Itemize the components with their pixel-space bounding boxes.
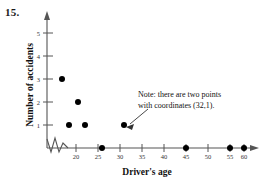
data-point bbox=[121, 122, 127, 128]
y-axis-arrowhead bbox=[44, 11, 50, 20]
figure-container: 15. 1 2 3 4 5 bbox=[0, 0, 266, 181]
data-point bbox=[99, 145, 105, 151]
x-tick-label: 60 bbox=[241, 153, 248, 160]
annotation-leader bbox=[126, 109, 148, 130]
annotation-arrowhead bbox=[126, 124, 134, 130]
y-axis-title: Number of accidents bbox=[25, 43, 35, 127]
y-tick-label: 4 bbox=[37, 53, 41, 60]
x-tick-label: 55 bbox=[227, 153, 234, 160]
x-tick-label: 35 bbox=[139, 153, 146, 160]
data-point bbox=[75, 99, 81, 105]
annotation-note: Note: there are two points with coordina… bbox=[138, 90, 221, 110]
x-tick-label: 20 bbox=[73, 153, 80, 160]
y-tick-label: 1 bbox=[37, 122, 40, 129]
y-tick-marks bbox=[43, 33, 53, 125]
x-tick-label: 50 bbox=[205, 153, 212, 160]
x-tick-label: 45 bbox=[183, 153, 190, 160]
y-tick-labels: 1 2 3 4 5 bbox=[37, 30, 41, 129]
x-axis-arrowhead bbox=[250, 145, 259, 151]
data-point bbox=[183, 145, 189, 151]
x-tick-labels: 20 25 30 35 40 45 50 55 60 bbox=[73, 153, 248, 160]
y-tick-label: 2 bbox=[37, 99, 40, 106]
annotation-line-2: with coordinates (32,1). bbox=[138, 101, 214, 110]
data-point-series bbox=[59, 76, 247, 151]
data-point bbox=[227, 145, 233, 151]
annotation-line-1: Note: there are two points bbox=[138, 90, 221, 99]
data-point bbox=[241, 145, 247, 151]
y-tick-label: 5 bbox=[37, 30, 40, 37]
x-axis-title: Driver's age bbox=[122, 167, 171, 177]
y-tick-label: 3 bbox=[37, 76, 40, 83]
x-tick-label: 25 bbox=[95, 153, 102, 160]
x-axis-break-symbol bbox=[47, 138, 68, 152]
data-point bbox=[66, 122, 72, 128]
x-tick-label: 40 bbox=[161, 153, 168, 160]
scatter-plot: 1 2 3 4 5 20 25 30 35 40 45 50 55 bbox=[0, 0, 266, 181]
data-point bbox=[59, 76, 65, 82]
data-point bbox=[82, 122, 88, 128]
x-tick-label: 30 bbox=[117, 153, 124, 160]
